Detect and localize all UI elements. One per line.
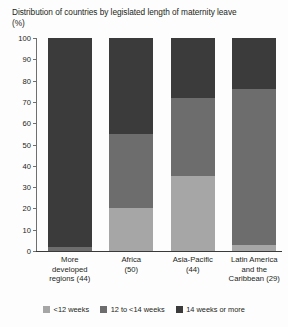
tick-mark [33, 251, 37, 252]
y-axis-line [36, 38, 37, 251]
tick-label: 60 [23, 119, 31, 128]
tick-label: 70 [23, 97, 31, 106]
chart-title: Distribution of countries by legislated … [12, 7, 242, 29]
bar-segment-1[interactable] [171, 176, 215, 251]
legend-swatch-icon [43, 306, 50, 313]
x-axis-label-line: Caribbean (29) [221, 274, 287, 284]
x-axis-label-2: Africa(50) [98, 255, 164, 274]
legend-label: 14 weeks or more [186, 305, 245, 314]
x-axis-label-line: More [37, 255, 103, 265]
plot-area: 1009080706050403020100 [36, 38, 282, 251]
legend-label: 12 to <14 weeks [111, 305, 165, 314]
x-axis-label-1: Moredevelopedregions (44) [37, 255, 103, 284]
legend-item-1[interactable]: <12 weeks [43, 305, 89, 314]
tick-label: 40 [23, 161, 31, 170]
x-axis-label-line: Africa [98, 255, 164, 265]
tick-mark [33, 187, 37, 188]
bar-segment-1[interactable] [109, 208, 153, 251]
x-axis-line [36, 251, 282, 252]
x-axis-label-line: and the [221, 265, 287, 275]
tick-label: 0 [27, 247, 31, 256]
bar-segment-3[interactable] [232, 38, 276, 89]
tick-label: 80 [23, 76, 31, 85]
bar-4[interactable] [232, 38, 276, 251]
bar-segment-2[interactable] [171, 98, 215, 177]
chart-legend: <12 weeks12 to <14 weeks14 weeks or more [0, 305, 288, 314]
bar-segment-2[interactable] [109, 134, 153, 209]
tick-label: 20 [23, 204, 31, 213]
tick-mark [33, 166, 37, 167]
x-axis-label-line: Latin America [221, 255, 287, 265]
x-axis-label-4: Latin Americaand theCaribbean (29) [221, 255, 287, 284]
bar-segment-1[interactable] [232, 245, 276, 251]
bar-3[interactable] [171, 38, 215, 251]
tick-mark [33, 38, 37, 39]
bar-segment-3[interactable] [171, 38, 215, 98]
tick-label: 30 [23, 183, 31, 192]
x-axis-label-line: developed [37, 265, 103, 275]
legend-swatch-icon [176, 306, 183, 313]
tick-label: 90 [23, 55, 31, 64]
tick-mark [33, 59, 37, 60]
tick-label: 50 [23, 140, 31, 149]
bar-segment-2[interactable] [232, 89, 276, 244]
x-axis-label-3: Asia-Pacific(44) [160, 255, 226, 274]
tick-mark [33, 230, 37, 231]
tick-mark [33, 102, 37, 103]
tick-mark [33, 123, 37, 124]
tick-mark [33, 145, 37, 146]
x-axis-labels: Moredevelopedregions (44)Africa(50)Asia-… [36, 255, 282, 297]
x-axis-label-line: (50) [98, 265, 164, 275]
bar-segment-3[interactable] [48, 38, 92, 247]
tick-label: 10 [23, 225, 31, 234]
tick-mark [33, 81, 37, 82]
x-axis-label-line: Asia-Pacific [160, 255, 226, 265]
legend-label: <12 weeks [54, 305, 90, 314]
bar-segment-3[interactable] [109, 38, 153, 134]
bar-2[interactable] [109, 38, 153, 251]
legend-item-3[interactable]: 14 weeks or more [176, 305, 245, 314]
x-axis-label-line: (44) [160, 265, 226, 275]
tick-mark [33, 208, 37, 209]
bar-1[interactable] [48, 38, 92, 251]
x-axis-label-line: regions (44) [37, 274, 103, 284]
legend-item-2[interactable]: 12 to <14 weeks [100, 305, 165, 314]
chart-container: Distribution of countries by legislated … [0, 0, 288, 327]
bar-segment-2[interactable] [48, 247, 92, 251]
tick-label: 100 [18, 34, 31, 43]
legend-swatch-icon [100, 306, 107, 313]
